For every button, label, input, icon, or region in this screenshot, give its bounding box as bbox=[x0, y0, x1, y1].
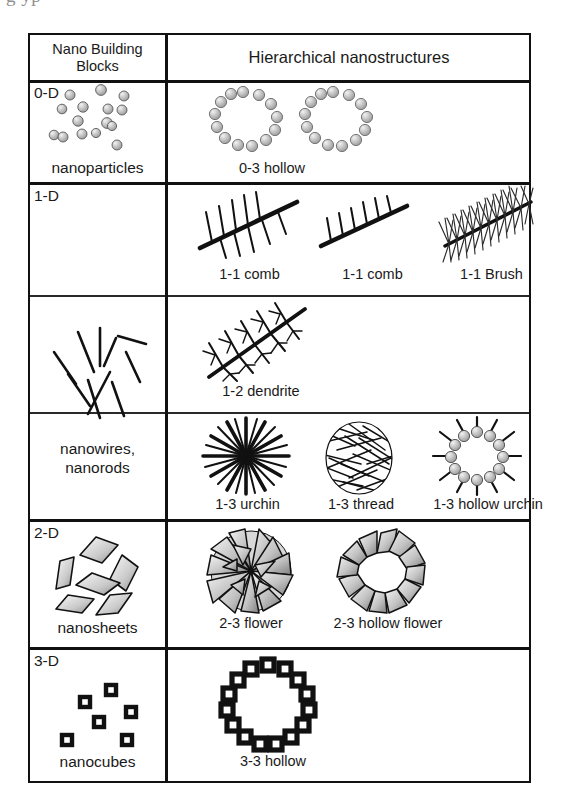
dimension-label-3d: 3-D bbox=[34, 653, 59, 669]
hollow-flower-icon bbox=[327, 527, 435, 615]
structure-label-1-2-dendrite: 1-2 dendrite bbox=[181, 383, 341, 399]
cell-structures-3-3: 3-3 hollow bbox=[167, 647, 531, 783]
caption-remnant-text: g yp bbox=[6, 0, 41, 7]
header-nano-building-blocks: Nano Building Blocks bbox=[30, 35, 165, 80]
dimension-label-1d: 1-D bbox=[34, 188, 59, 204]
urchin-icon bbox=[191, 416, 301, 496]
cell-structures-2-3: 2-3 flower bbox=[167, 519, 531, 647]
cube-ring-icon bbox=[213, 657, 323, 755]
building-block-label-nanorods-line2: nanorods bbox=[30, 459, 165, 476]
scattered-spheres-icon bbox=[38, 82, 162, 160]
caption-remnant: g yp bbox=[0, 0, 561, 26]
dendrite-icon bbox=[197, 301, 327, 383]
building-block-label-nanosheets: nanosheets bbox=[30, 619, 165, 636]
nanostructure-classification-table: Nano Building Blocks Hierarchical nanost… bbox=[28, 33, 531, 783]
header-left-line1: Nano Building bbox=[52, 41, 142, 58]
building-block-label-nanocubes: nanocubes bbox=[30, 753, 165, 770]
cell-building-block-2d: 2-D bbox=[30, 519, 165, 647]
cell-structures-0-3: 0-3 hollow bbox=[167, 80, 531, 182]
comb-icon bbox=[192, 190, 307, 260]
cell-structures-1-3: 1-3 urchin bbox=[167, 412, 531, 519]
structure-label-1-3-thread: 1-3 thread bbox=[307, 496, 415, 512]
thread-ball-icon bbox=[315, 420, 403, 496]
scattered-cubes-icon bbox=[50, 673, 156, 749]
structure-label-1-1-brush: 1-1 Brush bbox=[429, 266, 554, 282]
sphere-ring-icon bbox=[197, 86, 407, 158]
cell-building-block-1d: 1-D nanowi bbox=[30, 182, 165, 519]
brush-icon bbox=[435, 186, 540, 264]
hollow-urchin-icon bbox=[425, 416, 530, 496]
structure-label-2-3-flower: 2-3 flower bbox=[191, 615, 311, 631]
scattered-sheets-icon bbox=[44, 533, 156, 615]
structure-label-2-3-hollow-flower: 2-3 hollow flower bbox=[313, 615, 463, 631]
cell-building-block-0d: 0-D bbox=[30, 80, 165, 182]
scattered-rods-icon bbox=[42, 322, 158, 432]
header-hierarchical-nanostructures: Hierarchical nanostructures bbox=[167, 35, 531, 80]
structure-label-1-3-hollow-urchin: 1-3 hollow urchin bbox=[413, 496, 561, 512]
structure-label-1-1-comb-b: 1-1 comb bbox=[310, 266, 435, 282]
table-grid: Nano Building Blocks Hierarchical nanost… bbox=[30, 35, 529, 781]
flower-icon bbox=[197, 527, 305, 615]
cell-structures-1-1: 1-1 comb 1 bbox=[167, 182, 531, 295]
cell-structures-1-2: 1-2 dendrite bbox=[167, 295, 531, 412]
building-block-label-nanoparticles: nanoparticles bbox=[30, 159, 165, 176]
comb-icon bbox=[315, 196, 415, 258]
structure-label-0-3-hollow: 0-3 hollow bbox=[197, 160, 347, 176]
structure-label-3-3-hollow: 3-3 hollow bbox=[203, 753, 343, 769]
structure-label-1-3-urchin: 1-3 urchin bbox=[185, 496, 310, 512]
structure-label-1-1-comb-a: 1-1 comb bbox=[187, 266, 312, 282]
header-left-line2: Blocks bbox=[52, 58, 142, 75]
building-block-label-nanowires-line1: nanowires, bbox=[30, 440, 165, 457]
cell-building-block-3d: 3-D nanocubes bbox=[30, 647, 165, 783]
